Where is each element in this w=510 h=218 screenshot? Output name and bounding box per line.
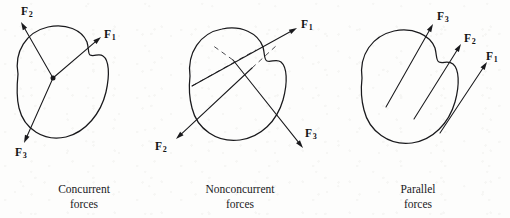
force-systems-figure: F1F2F3F1F2F3F3F2F1 ConcurrentforcesNonco… xyxy=(0,0,510,218)
force-label-concurrent-F1: F1 xyxy=(104,29,116,42)
concurrency-point-concurrent xyxy=(51,76,56,81)
force-label-symbol: F xyxy=(15,146,22,158)
rigid-body-outline-nonconcurrent xyxy=(189,28,286,140)
force-label-subscript: 1 xyxy=(309,23,313,32)
force-label-subscript: 3 xyxy=(313,132,317,141)
caption-line-secondary: forces xyxy=(206,197,275,212)
force-arrow-head-concurrent-F2 xyxy=(21,22,27,30)
panel-caption-text-nonconcurrent: Nonconcurrentforces xyxy=(206,182,275,211)
line-of-action-nonconcurrent-2 xyxy=(212,45,233,60)
force-label-parallel-F1: F1 xyxy=(486,51,498,64)
force-label-symbol: F xyxy=(464,32,471,44)
force-label-symbol: F xyxy=(104,28,111,40)
caption-line-primary: Parallel xyxy=(400,182,435,197)
caption-line-secondary: forces xyxy=(400,197,435,212)
force-label-subscript: 2 xyxy=(472,37,476,46)
force-label-symbol: F xyxy=(21,5,28,17)
force-label-nonconcurrent-F2: F2 xyxy=(155,141,167,154)
force-label-nonconcurrent-F1: F1 xyxy=(301,19,313,32)
force-label-nonconcurrent-F3: F3 xyxy=(305,128,317,141)
panel-caption-text-concurrent: Concurrentforces xyxy=(58,182,110,211)
force-arrow-shaft-concurrent-F2 xyxy=(24,28,53,78)
force-label-parallel-F2: F2 xyxy=(464,33,476,46)
force-arrow-shaft-nonconcurrent-F3 xyxy=(233,60,299,143)
force-label-subscript: 3 xyxy=(445,15,449,24)
force-label-symbol: F xyxy=(305,127,312,139)
caption-line-secondary: forces xyxy=(58,197,110,212)
force-label-subscript: 1 xyxy=(112,33,116,42)
force-label-symbol: F xyxy=(155,140,162,152)
force-arrow-head-concurrent-F3 xyxy=(24,135,30,143)
panel-caption-text-parallel: Parallelforces xyxy=(400,182,435,211)
force-label-subscript: 3 xyxy=(23,151,27,160)
force-arrow-shaft-concurrent-F1 xyxy=(53,41,96,78)
force-label-concurrent-F2: F2 xyxy=(21,6,33,19)
force-arrow-head-parallel-F2 xyxy=(455,44,461,52)
force-label-concurrent-F3: F3 xyxy=(15,147,27,160)
caption-line-primary: Concurrent xyxy=(58,182,110,197)
force-arrow-shaft-parallel-F1 xyxy=(440,68,483,133)
panel-concurrent xyxy=(17,22,108,143)
force-label-subscript: 1 xyxy=(494,55,498,64)
force-label-symbol: F xyxy=(301,18,308,30)
force-arrow-shaft-nonconcurrent-F2 xyxy=(181,68,252,134)
force-label-subscript: 2 xyxy=(29,10,33,19)
force-label-symbol: F xyxy=(437,10,444,22)
force-arrow-head-parallel-F3 xyxy=(427,24,433,32)
force-label-symbol: F xyxy=(486,50,493,62)
force-arrow-head-nonconcurrent-F1 xyxy=(289,28,297,34)
force-label-parallel-F3: F3 xyxy=(437,11,449,24)
rigid-body-outline-parallel xyxy=(361,30,458,143)
panel-nonconcurrent xyxy=(176,28,303,148)
force-arrow-shaft-parallel-F3 xyxy=(386,30,430,107)
caption-line-primary: Nonconcurrent xyxy=(206,182,275,197)
force-arrow-shaft-concurrent-F3 xyxy=(27,78,53,137)
force-label-subscript: 2 xyxy=(163,145,167,154)
force-arrow-shaft-parallel-F2 xyxy=(414,50,457,119)
